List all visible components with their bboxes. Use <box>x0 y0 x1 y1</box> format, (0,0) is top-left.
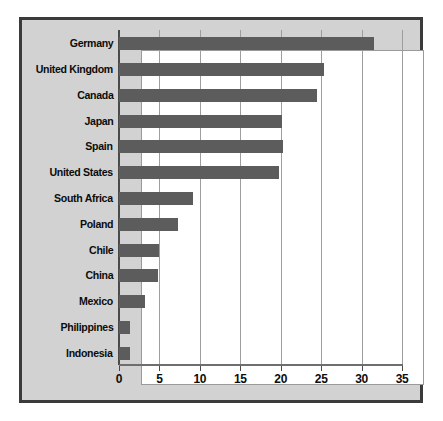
category-label-germany: Germany <box>69 37 113 50</box>
x-tick-mark-25 <box>321 366 322 371</box>
x-tick-label-35: 35 <box>396 372 409 386</box>
chart-figure: GermanyUnited KingdomCanadaJapanSpainUni… <box>0 0 443 421</box>
category-label-united-states: United States <box>50 166 113 179</box>
x-tick-label-0: 0 <box>116 372 122 386</box>
x-tick-mark-30 <box>362 366 363 371</box>
bar-japan[interactable] <box>119 115 282 128</box>
bar-germany[interactable] <box>119 37 374 50</box>
x-tick-label-15: 15 <box>234 372 247 386</box>
x-tick-mark-10 <box>200 366 201 371</box>
x-tick-mark-15 <box>240 366 241 371</box>
x-tick-label-30: 30 <box>355 372 368 386</box>
category-label-chile: Chile <box>89 244 113 257</box>
gridline-15 <box>240 30 241 365</box>
category-label-poland: Poland <box>80 218 113 231</box>
x-tick-label-20: 20 <box>274 372 287 386</box>
x-tick-mark-5 <box>159 366 160 371</box>
bar-philippines[interactable] <box>119 321 130 334</box>
category-label-japan: Japan <box>84 115 113 128</box>
bar-china[interactable] <box>119 269 158 282</box>
x-axis-baseline <box>119 364 403 366</box>
gridline-30 <box>362 30 363 365</box>
bar-chile[interactable] <box>119 244 159 257</box>
category-label-united-kingdom: United Kingdom <box>36 63 113 76</box>
x-tick-label-5: 5 <box>156 372 162 386</box>
category-label-indonesia: Indonesia <box>67 347 113 360</box>
bar-mexico[interactable] <box>119 295 145 308</box>
gridline-20 <box>281 30 282 365</box>
bar-united-kingdom[interactable] <box>119 63 324 76</box>
gridline-35 <box>402 30 403 365</box>
gridline-25 <box>321 30 322 365</box>
bar-south-africa[interactable] <box>119 192 193 205</box>
bar-indonesia[interactable] <box>119 347 130 360</box>
bar-united-states[interactable] <box>119 166 279 179</box>
x-tick-mark-0 <box>119 366 120 371</box>
category-label-spain: Spain <box>86 140 113 153</box>
gridline-10 <box>200 30 201 365</box>
category-label-canada: Canada <box>77 89 113 102</box>
category-label-south-africa: South Africa <box>54 192 113 205</box>
category-label-philippines: Philippines <box>60 321 113 334</box>
x-tick-label-10: 10 <box>193 372 206 386</box>
bar-spain[interactable] <box>119 140 283 153</box>
category-label-mexico: Mexico <box>79 295 113 308</box>
bar-canada[interactable] <box>119 89 317 102</box>
category-label-china: China <box>85 269 113 282</box>
bar-poland[interactable] <box>119 218 178 231</box>
x-tick-mark-35 <box>402 366 403 371</box>
x-tick-mark-20 <box>281 366 282 371</box>
x-tick-label-25: 25 <box>315 372 328 386</box>
